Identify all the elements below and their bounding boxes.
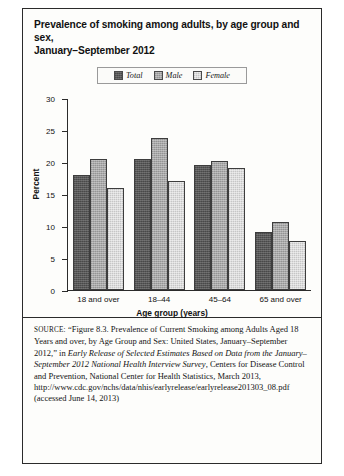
- title-line-1: Prevalence of smoking among adults, by a…: [34, 18, 310, 44]
- bar-group-2: [194, 99, 245, 290]
- x-axis-title: Age group (years): [23, 308, 321, 318]
- y-axis-title: Percent: [31, 154, 41, 214]
- y-axis-tick-0: 0: [62, 291, 68, 292]
- y-axis-tick-label-10: 10: [46, 223, 55, 232]
- legend-item-female: Female: [193, 71, 230, 80]
- bar-female-1: [168, 181, 185, 290]
- legend-swatch-male-icon: [154, 71, 163, 80]
- legend-label-male: Male: [166, 71, 183, 80]
- legend-label-total: Total: [126, 71, 143, 80]
- x-axis-label-2: 45–64: [190, 295, 250, 304]
- x-axis-label-0: 18 and over: [68, 295, 128, 304]
- y-axis-tick-label-15: 15: [46, 191, 55, 200]
- y-axis-tick-label-5: 5: [51, 255, 55, 264]
- plot-area: 051015202530: [67, 99, 311, 291]
- bar-groups: [68, 99, 311, 290]
- x-axis-label-1: 18–44: [129, 295, 189, 304]
- bar-female-0: [107, 188, 124, 290]
- x-axis-tick-labels: 18 and over18–4445–6465 and over: [68, 295, 311, 304]
- bar-male-2: [211, 161, 228, 290]
- bar-female-2: [228, 168, 245, 290]
- title-line-2: January–September 2012: [34, 44, 310, 57]
- legend-item-male: Male: [154, 71, 183, 80]
- x-axis-label-3: 65 and over: [251, 295, 311, 304]
- legend-item-total: Total: [114, 71, 143, 80]
- source-label: SOURCE:: [34, 326, 66, 334]
- bar-male-3: [272, 222, 289, 290]
- legend-swatch-total-icon: [114, 71, 123, 80]
- source-note: SOURCE: “Figure 8.3. Prevalence of Curre…: [23, 318, 321, 405]
- chart-legend: Total Male Female: [97, 67, 247, 84]
- figure-title: Prevalence of smoking among adults, by a…: [23, 9, 321, 57]
- y-axis-tick-label-30: 30: [46, 95, 55, 104]
- bar-group-1: [134, 99, 185, 290]
- bar-group-3: [255, 99, 306, 290]
- x-axis-line: [67, 290, 311, 291]
- bar-male-0: [90, 159, 107, 290]
- y-axis-tick-label-20: 20: [46, 159, 55, 168]
- y-axis-tick-label-25: 25: [46, 127, 55, 136]
- bar-female-3: [289, 241, 306, 290]
- bar-total-2: [194, 165, 211, 290]
- legend-swatch-female-icon: [193, 71, 202, 80]
- bar-total-1: [134, 159, 151, 290]
- bar-male-1: [151, 138, 168, 290]
- bar-chart: Percent 051015202530 18 and over18–4445–…: [23, 93, 321, 311]
- bar-total-0: [73, 175, 90, 290]
- y-axis-tick-label-0: 0: [51, 287, 55, 296]
- figure-container: Prevalence of smoking among adults, by a…: [22, 8, 322, 464]
- bar-total-3: [255, 232, 272, 290]
- legend-label-female: Female: [205, 71, 230, 80]
- bar-group-0: [73, 99, 124, 290]
